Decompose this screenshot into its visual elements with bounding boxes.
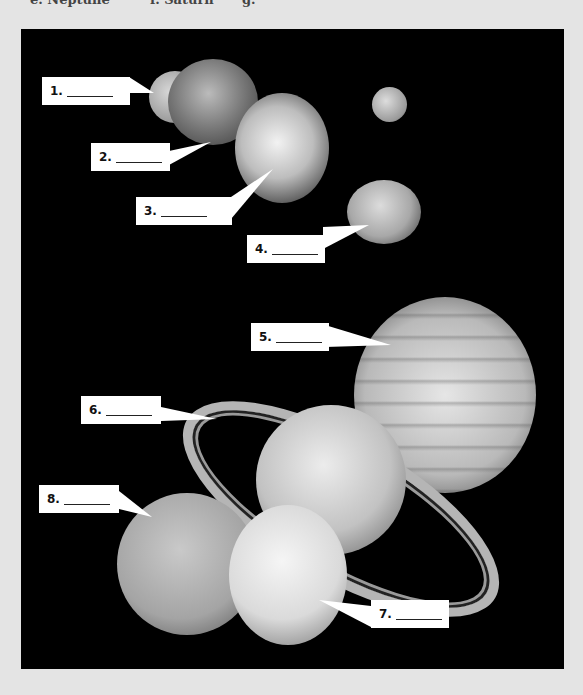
answer-blank[interactable] — [106, 405, 152, 416]
label-box-2[interactable]: 2. — [91, 143, 170, 171]
answer-blank[interactable] — [64, 494, 110, 505]
label-number: 4. — [255, 242, 268, 256]
label-number: 2. — [99, 150, 112, 164]
label-number: 3. — [144, 204, 157, 218]
label-box-3[interactable]: 3. — [136, 197, 232, 225]
label-number: 8. — [47, 492, 60, 506]
label-box-6[interactable]: 6. — [81, 396, 161, 424]
answer-blank[interactable] — [161, 206, 207, 217]
answer-blank[interactable] — [67, 86, 113, 97]
answer-blank[interactable] — [396, 609, 442, 620]
label-box-8[interactable]: 8. — [39, 485, 119, 513]
answer-blank[interactable] — [272, 244, 318, 255]
answer-option-g: g. — [242, 0, 256, 7]
label-box-4[interactable]: 4. — [247, 235, 325, 263]
label-number: 1. — [50, 84, 63, 98]
label-number: 5. — [259, 330, 272, 344]
answer-option-f: f. Saturn — [150, 0, 214, 7]
answer-option-e: e. Neptune — [30, 0, 110, 7]
label-box-5[interactable]: 5. — [251, 323, 329, 351]
answer-blank[interactable] — [276, 332, 322, 343]
label-box-1[interactable]: 1. — [42, 77, 130, 105]
answer-blank[interactable] — [116, 152, 162, 163]
label-box-7[interactable]: 7. — [371, 600, 449, 628]
label-number: 6. — [89, 403, 102, 417]
header-strip-cropped: e. Neptune f. Saturn g. — [0, 0, 583, 6]
planet-diagram-panel: 1. 2. 3. 4. 5. 6. 8. 7. — [21, 29, 564, 669]
label-number: 7. — [379, 607, 392, 621]
